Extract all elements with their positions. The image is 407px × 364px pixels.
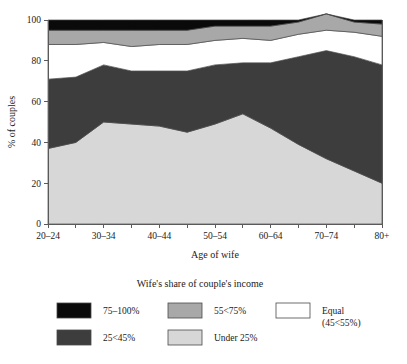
legend-swatch-55-75 xyxy=(168,303,202,318)
x-axis: 20–2430–3440–4450–5460–6470–7480+ Age of… xyxy=(36,224,389,260)
legend-swatch-under-25 xyxy=(168,330,202,345)
legend-sublabel-equal: (45<55%) xyxy=(322,318,361,329)
y-tick-label: 60 xyxy=(32,97,42,107)
y-tick-label: 100 xyxy=(27,15,42,25)
legend-label-25-45: 25<45% xyxy=(103,333,135,343)
x-tick-group: 20–2430–3440–4450–5460–6470–7480+ xyxy=(36,224,389,241)
y-tick-label: 80 xyxy=(32,56,42,66)
legend-item-75-100[interactable]: 75–100% xyxy=(57,303,140,318)
x-tick-label: 20–24 xyxy=(36,231,60,241)
y-axis: 020406080100 % of couples xyxy=(6,15,48,229)
legend: Wife's share of couple's income 75–100%5… xyxy=(57,278,361,345)
legend-swatch-75-100 xyxy=(57,303,91,318)
y-tick-label: 0 xyxy=(36,219,41,229)
stacked-area-bands xyxy=(48,14,382,224)
legend-swatch-25-45 xyxy=(57,330,91,345)
legend-item-25-45[interactable]: 25<45% xyxy=(57,330,135,345)
y-tick-group: 020406080100 xyxy=(27,15,48,229)
income-share-stacked-area-chart: 020406080100 % of couples 20–2430–3440–4… xyxy=(0,0,407,364)
plot-area xyxy=(48,14,382,224)
x-tick-label: 70–74 xyxy=(314,231,338,241)
legend-item-under-25[interactable]: Under 25% xyxy=(168,330,258,345)
legend-label-equal: Equal xyxy=(322,306,345,316)
legend-item-equal[interactable]: Equal(45<55%) xyxy=(276,303,361,329)
x-tick-label: 80+ xyxy=(375,231,390,241)
legend-items: 75–100%55<75%Equal(45<55%)25<45%Under 25… xyxy=(57,303,361,345)
x-tick-label: 50–54 xyxy=(203,231,227,241)
legend-label-55-75: 55<75% xyxy=(214,306,246,316)
x-tick-label: 40–44 xyxy=(147,231,171,241)
legend-item-55-75[interactable]: 55<75% xyxy=(168,303,246,318)
x-tick-label: 60–64 xyxy=(259,231,283,241)
legend-label-75-100: 75–100% xyxy=(103,306,140,316)
legend-label-under-25: Under 25% xyxy=(214,333,258,343)
legend-swatch-equal xyxy=(276,303,310,318)
y-axis-title: % of couples xyxy=(6,96,17,148)
x-tick-label: 30–34 xyxy=(92,231,116,241)
y-tick-label: 20 xyxy=(32,179,42,189)
x-axis-title: Age of wife xyxy=(191,249,239,260)
legend-title: Wife's share of couple's income xyxy=(137,278,264,289)
y-tick-label: 40 xyxy=(32,138,42,148)
